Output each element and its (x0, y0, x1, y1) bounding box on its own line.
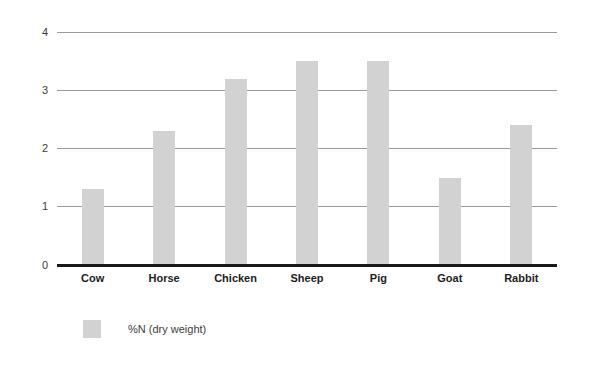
y-tick-label-2: 2 (22, 143, 48, 154)
bar-rect-pig (367, 61, 389, 265)
bar-sheep[interactable] (271, 32, 342, 265)
y-tick-label-4: 4 (22, 27, 48, 38)
y-tick-label-1: 1 (22, 201, 48, 212)
y-tick-label-0: 0 (22, 260, 48, 271)
bar-horse[interactable] (128, 32, 199, 265)
y-tick-label-3: 3 (22, 85, 48, 96)
bar-cow[interactable] (57, 32, 128, 265)
x-axis-category-labels: CowHorseChickenSheepPigGoatRabbit (57, 272, 557, 292)
bar-series-n-dry-weight (57, 32, 557, 265)
chart-legend: %N (dry weight) (83, 320, 206, 338)
bar-rect-sheep (296, 61, 318, 265)
x-label-rabbit: Rabbit (504, 272, 538, 284)
legend-swatch-n-dry-weight (83, 320, 101, 338)
legend-label-n-dry-weight: %N (dry weight) (128, 323, 206, 335)
y-axis: 4 3 2 1 0 (0, 0, 48, 367)
bar-pig[interactable] (343, 32, 414, 265)
x-label-sheep: Sheep (290, 272, 323, 284)
bar-chicken[interactable] (200, 32, 271, 265)
x-label-chicken: Chicken (214, 272, 257, 284)
x-axis-baseline (57, 264, 557, 267)
x-label-cow: Cow (81, 272, 104, 284)
bar-rabbit[interactable] (486, 32, 557, 265)
bar-rect-goat (439, 178, 461, 265)
bar-goat[interactable] (414, 32, 485, 265)
x-label-goat: Goat (437, 272, 462, 284)
bar-rect-rabbit (510, 125, 532, 265)
bar-chart: 4 3 2 1 0 CowHorseChickenSheepPigGoatRab… (0, 0, 595, 367)
x-label-horse: Horse (149, 272, 180, 284)
x-label-pig: Pig (370, 272, 387, 284)
bar-rect-cow (82, 189, 104, 265)
bar-rect-horse (153, 131, 175, 265)
bar-rect-chicken (225, 79, 247, 265)
